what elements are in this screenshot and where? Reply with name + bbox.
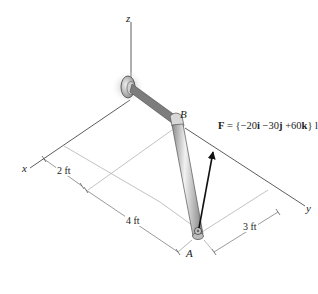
force-label: F = {−20i −30j +60k} lb — [218, 121, 318, 132]
dimension-2ft: 2 ft — [56, 166, 72, 176]
dimension-lines — [44, 159, 278, 252]
diagram-canvas — [0, 0, 318, 294]
z-axis-label: z — [126, 13, 130, 24]
pipe-segment-wall-to-B — [130, 84, 176, 123]
force-j-unit: j — [279, 120, 283, 131]
point-A-fitting — [195, 228, 202, 235]
point-B-label: B — [180, 109, 187, 120]
force-equals: = — [227, 120, 233, 131]
construction-lines — [64, 130, 268, 232]
x-axis-label: x — [22, 163, 27, 174]
y-axis — [185, 128, 305, 206]
force-i-coef: −20 — [241, 120, 257, 131]
x-axis — [30, 100, 130, 168]
force-k-coef: +60 — [285, 120, 301, 131]
dimension-4ft: 4 ft — [125, 216, 141, 226]
force-i-unit: i — [257, 120, 260, 131]
force-close-brace: } — [307, 120, 312, 131]
force-unit: lb — [315, 120, 318, 131]
dimension-ticks — [42, 156, 280, 255]
dimension-3ft: 3 ft — [242, 222, 258, 232]
force-arrow — [199, 152, 213, 228]
force-j-coef: −30 — [263, 120, 279, 131]
force-symbol: F — [218, 120, 224, 131]
point-A-label: A — [186, 248, 193, 259]
y-axis-label: y — [306, 203, 311, 214]
